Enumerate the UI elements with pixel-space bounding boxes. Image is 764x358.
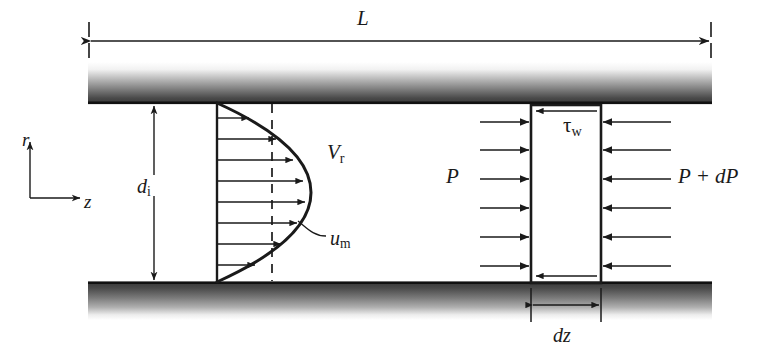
label-pressure-upstream: P: [446, 166, 459, 187]
pressure-arrows-downstream: [603, 122, 671, 266]
label-element-length: dz: [553, 325, 571, 345]
label-max-velocity-symbol: u: [330, 227, 340, 249]
coordinate-axes: [30, 142, 80, 198]
length-dimension: [89, 22, 711, 60]
label-length-L: L: [357, 8, 369, 29]
pressure-arrows-upstream: [480, 122, 529, 266]
pipe-top-wall: [88, 62, 712, 104]
label-wall-shear-subscript: w: [571, 123, 581, 139]
label-axis-z: z: [84, 192, 91, 211]
velocity-profile: [217, 103, 326, 282]
label-inner-diameter: di: [137, 176, 151, 199]
velocity-envelope-curve: [217, 103, 311, 282]
pipe-bottom-wall: [88, 281, 712, 320]
label-max-velocity-subscript: m: [340, 236, 351, 251]
pipe-flow-diagram: L r z di Vr um τw P P + dP dz: [0, 0, 764, 358]
label-max-velocity: um: [330, 228, 351, 251]
label-wall-shear: τw: [563, 115, 582, 138]
label-velocity-profile-symbol: V: [327, 140, 340, 164]
label-inner-diameter-symbol: d: [137, 175, 147, 197]
label-velocity-profile: Vr: [327, 142, 345, 165]
label-pressure-downstream: P + dP: [678, 166, 738, 187]
label-axis-r: r: [22, 130, 29, 149]
label-element-length-symbol: d: [553, 324, 563, 346]
label-velocity-profile-subscript: r: [340, 150, 345, 166]
diagram-canvas: [0, 0, 764, 358]
label-element-length-var: z: [563, 324, 571, 346]
label-inner-diameter-subscript: i: [147, 184, 151, 199]
